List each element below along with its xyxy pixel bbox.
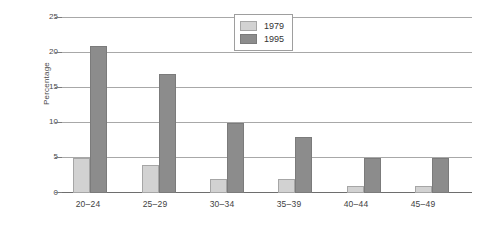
- chart-legend: 1979 1995: [234, 14, 293, 51]
- gridline-20: [62, 52, 472, 53]
- x-axis-baseline: [62, 192, 472, 193]
- legend-swatch-1979-icon: [240, 21, 257, 31]
- y-tick-label-5: 5: [18, 153, 58, 161]
- x-tick-label-40-44: 40–44: [321, 199, 391, 209]
- tick-mark-5: [55, 157, 62, 158]
- bar-1995-45-49: [432, 158, 449, 193]
- bar-chart: Percentage 25 20 15 10 5 0 20–24 25–29 3…: [0, 0, 480, 238]
- bar-1995-35-39: [295, 137, 312, 193]
- tick-mark-25: [55, 17, 62, 18]
- legend-label-1979: 1979: [264, 22, 284, 31]
- tick-mark-10: [55, 122, 62, 123]
- y-tick-label-20: 20: [18, 48, 58, 56]
- bar-1979-20-24: [73, 158, 90, 193]
- x-tick-label-45-49: 45–49: [388, 199, 458, 209]
- bar-1995-40-44: [364, 158, 381, 193]
- y-tick-label-15: 15: [18, 83, 58, 91]
- y-tick-label-25: 25: [18, 13, 58, 21]
- y-tick-label-10: 10: [18, 118, 58, 126]
- gridline-5: [62, 157, 472, 158]
- bar-1979-40-44: [347, 186, 364, 193]
- bar-1979-30-34: [210, 179, 227, 193]
- bar-1995-30-34: [227, 123, 244, 193]
- tick-mark-20: [55, 52, 62, 53]
- bar-1995-20-24: [90, 46, 107, 193]
- bar-1979-35-39: [278, 179, 295, 193]
- x-tick-label-30-34: 30–34: [187, 199, 257, 209]
- legend-swatch-1995-icon: [240, 34, 257, 44]
- gridline-15: [62, 87, 472, 88]
- x-tick-label-25-29: 25–29: [120, 199, 190, 209]
- bar-1979-25-29: [142, 165, 159, 193]
- gridline-10: [62, 122, 472, 123]
- legend-label-1995: 1995: [264, 35, 284, 44]
- x-tick-label-35-39: 35–39: [254, 199, 324, 209]
- y-tick-label-0: 0: [18, 189, 58, 197]
- bar-1979-45-49: [415, 186, 432, 193]
- legend-item-1979: 1979: [240, 20, 284, 32]
- tick-mark-0: [55, 192, 62, 193]
- x-tick-label-20-24: 20–24: [53, 199, 123, 209]
- legend-item-1995: 1995: [240, 33, 284, 45]
- bar-1995-25-29: [159, 74, 176, 193]
- tick-mark-15: [55, 87, 62, 88]
